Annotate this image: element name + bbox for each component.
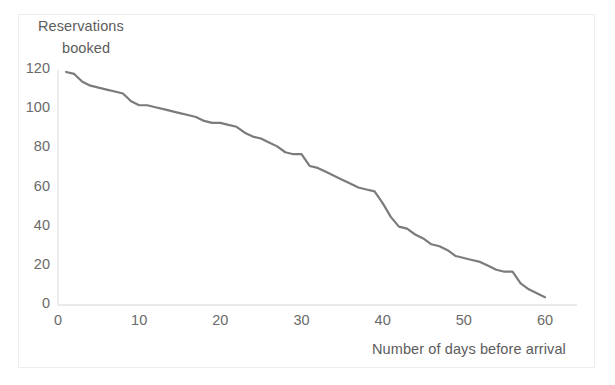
y-tick-label: 100 xyxy=(18,99,50,115)
x-tick-label: 30 xyxy=(285,312,319,328)
y-axis-title-line-1: Reservations xyxy=(38,18,124,34)
x-tick-label: 50 xyxy=(447,312,481,328)
x-axis-title: Number of days before arrival xyxy=(372,341,566,357)
y-tick-label: 20 xyxy=(18,256,50,272)
x-tick-label: 40 xyxy=(366,312,400,328)
y-tick-label: 60 xyxy=(18,178,50,194)
y-tick-label: 0 xyxy=(18,295,50,311)
x-tick-label: 0 xyxy=(41,312,75,328)
y-tick-label: 40 xyxy=(18,217,50,233)
x-tick-label: 60 xyxy=(528,312,562,328)
data-series-reservations xyxy=(66,72,545,297)
y-axis-title-line-2: booked xyxy=(62,40,110,56)
y-tick-label: 120 xyxy=(18,60,50,76)
x-tick-label: 20 xyxy=(203,312,237,328)
x-tick-label: 10 xyxy=(122,312,156,328)
y-tick-label: 80 xyxy=(18,138,50,154)
